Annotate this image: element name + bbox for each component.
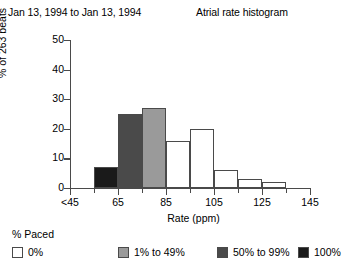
legend-label: 0%: [28, 246, 43, 258]
histogram-bar: [118, 114, 142, 188]
legend-swatch: [217, 247, 228, 258]
legend-label: 1% to 49%: [134, 246, 185, 258]
legend-swatch: [298, 247, 309, 258]
x-tick-mark-major: [70, 189, 71, 195]
y-tick-label: 30: [52, 92, 64, 104]
x-tick-label: 125: [253, 196, 271, 208]
page-title: Atrial rate histogram: [196, 6, 288, 18]
legend-item: 100%: [298, 246, 341, 260]
y-tick-label: 50: [52, 33, 64, 45]
y-tick-label: 40: [52, 63, 64, 75]
y-axis-tick-labels: 01020304050: [26, 40, 64, 189]
histogram-bar: [190, 129, 214, 188]
histogram-bar: [166, 141, 190, 188]
x-tick-mark-major: [262, 189, 263, 195]
plot-area: [70, 40, 310, 188]
x-tick-mark-minor: [190, 189, 191, 193]
legend-item: 1% to 49%: [118, 246, 185, 260]
legend-title: % Paced: [12, 228, 54, 240]
x-tick-mark-minor: [238, 189, 239, 193]
atrial-rate-histogram-panel: Jan 13, 1994 to Jan 13, 1994 Atrial rate…: [0, 0, 343, 267]
x-tick-mark-major: [118, 189, 119, 195]
legend-item: 0%: [12, 246, 43, 260]
histogram-bar: [262, 182, 286, 188]
histogram-bar: [94, 167, 118, 188]
histogram-bar: [214, 170, 238, 188]
legend-swatch: [12, 247, 23, 258]
y-tick-label: 10: [52, 151, 64, 163]
x-axis-title-text: Rate (ppm): [167, 212, 220, 224]
x-tick-label: <45: [61, 196, 79, 208]
x-tick-mark-minor: [286, 189, 287, 193]
x-tick-mark-major: [310, 189, 311, 195]
x-tick-label: 65: [112, 196, 124, 208]
x-tick-mark-major: [214, 189, 215, 195]
histogram-bar: [238, 179, 262, 188]
histogram-bar: [142, 108, 166, 188]
legend-label: 100%: [314, 246, 341, 258]
date-range-label: Jan 13, 1994 to Jan 13, 1994: [8, 6, 141, 18]
x-tick-mark-major: [166, 189, 167, 195]
legend-swatch: [118, 247, 129, 258]
x-tick-label: 145: [301, 196, 319, 208]
x-axis-tick-labels: <456585105125145: [0, 196, 343, 210]
x-axis-title: Rate (ppm): [0, 212, 343, 224]
x-tick-label: 85: [160, 196, 172, 208]
legend-label: 50% to 99%: [233, 246, 290, 258]
y-tick-label: 20: [52, 122, 64, 134]
x-tick-label: 105: [205, 196, 223, 208]
x-tick-mark-minor: [142, 189, 143, 193]
y-axis-title: % of 263 beats: [0, 8, 8, 78]
legend-item: 50% to 99%: [217, 246, 290, 260]
y-tick-label: 0: [58, 181, 64, 193]
x-tick-mark-minor: [94, 189, 95, 193]
